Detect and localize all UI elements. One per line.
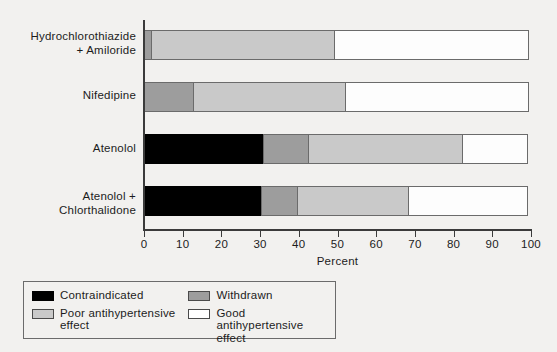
x-axis-tick xyxy=(492,231,493,237)
category-label-line1: Hydrochlorothiazide xyxy=(10,30,136,44)
bar-segment-good-effect xyxy=(462,134,528,164)
bar-row xyxy=(144,30,531,60)
x-axis-tick xyxy=(183,231,184,237)
category-label-atenolol: Atenolol xyxy=(10,142,136,156)
category-label-line2: Chlorthalidone xyxy=(10,204,136,218)
category-label-line1: Nifedipine xyxy=(10,89,136,103)
x-axis-tick-label: 0 xyxy=(124,238,164,250)
bar-segment-poor-effect xyxy=(151,30,335,60)
legend-item-contraindicated: Contraindicated xyxy=(32,289,188,302)
x-axis-title: Percent xyxy=(144,255,531,267)
bar-segment-contraindicated xyxy=(144,134,264,164)
legend-swatch-withdrawn xyxy=(188,291,210,301)
bar-row xyxy=(144,186,531,216)
legend-label-poor-effect-line2: effect xyxy=(60,319,89,331)
x-axis-tick-label: 80 xyxy=(434,238,474,250)
bar-segment-withdrawn xyxy=(263,134,309,164)
legend-swatch-poor-effect xyxy=(32,309,54,319)
legend-label-good-effect-line2: effect xyxy=(216,332,245,344)
x-axis-tick xyxy=(260,231,261,237)
x-axis-tick xyxy=(299,231,300,237)
legend-row-1: Contraindicated Withdrawn xyxy=(32,289,327,302)
category-label-line1: Atenolol xyxy=(10,142,136,156)
legend-label-withdrawn: Withdrawn xyxy=(216,289,272,302)
bar-segment-good-effect xyxy=(408,186,528,216)
legend-swatch-good-effect xyxy=(188,309,210,319)
x-axis-tick xyxy=(531,231,532,237)
x-axis-tick-label: 20 xyxy=(201,238,241,250)
legend-item-withdrawn: Withdrawn xyxy=(188,289,327,302)
bar-segment-withdrawn xyxy=(261,186,298,216)
bar-segment-poor-effect xyxy=(193,82,346,112)
bar-segment-poor-effect xyxy=(297,186,409,216)
legend-swatch-contraindicated xyxy=(32,291,54,301)
category-label-line2: + Amiloride xyxy=(10,44,136,58)
bar-segment-good-effect xyxy=(334,30,529,60)
bar-row xyxy=(144,82,531,112)
category-label-nifedipine: Nifedipine xyxy=(10,89,136,103)
legend-label-poor-effect: Poor antihypertensive effect xyxy=(60,307,175,332)
legend-row-2: Poor antihypertensive effect Good antihy… xyxy=(32,307,327,345)
legend-item-poor-effect: Poor antihypertensive effect xyxy=(32,307,188,345)
x-axis-tick xyxy=(221,231,222,237)
chart-legend: Contraindicated Withdrawn Poor antihyper… xyxy=(23,281,336,339)
x-axis-tick xyxy=(415,231,416,237)
x-axis-tick-label: 60 xyxy=(356,238,396,250)
x-axis-tick xyxy=(454,231,455,237)
legend-label-poor-effect-line1: Poor antihypertensive xyxy=(60,307,175,319)
x-axis-tick-label: 50 xyxy=(318,238,358,250)
x-axis-tick-label: 10 xyxy=(163,238,203,250)
bar-segment-good-effect xyxy=(345,82,529,112)
y-axis-line xyxy=(143,20,145,230)
x-axis-tick xyxy=(376,231,377,237)
x-axis-tick-label: 100 xyxy=(511,238,551,250)
plot-area xyxy=(144,22,531,228)
legend-label-contraindicated: Contraindicated xyxy=(60,289,144,302)
legend-item-good-effect: Good antihypertensive effect xyxy=(188,307,327,345)
bar-segment-withdrawn xyxy=(144,82,194,112)
bar-row xyxy=(144,134,531,164)
x-axis-tick xyxy=(144,231,145,237)
legend-label-good-effect-line1: Good antihypertensive xyxy=(216,307,303,332)
category-label-line1: Atenolol + xyxy=(10,190,136,204)
x-axis-tick xyxy=(338,231,339,237)
bar-segment-contraindicated xyxy=(144,186,262,216)
x-axis-tick-label: 30 xyxy=(240,238,280,250)
x-axis-tick-label: 90 xyxy=(472,238,512,250)
bar-segment-poor-effect xyxy=(308,134,463,164)
chart-figure: Hydrochlorothiazide + Amiloride Nifedipi… xyxy=(0,0,557,352)
category-label-hydrochlorothiazide-amiloride: Hydrochlorothiazide + Amiloride xyxy=(10,30,136,57)
legend-label-good-effect: Good antihypertensive effect xyxy=(216,307,327,345)
x-axis-tick-label: 70 xyxy=(395,238,435,250)
category-label-atenolol-chlorthalidone: Atenolol + Chlorthalidone xyxy=(10,190,136,217)
x-axis-tick-label: 40 xyxy=(279,238,319,250)
